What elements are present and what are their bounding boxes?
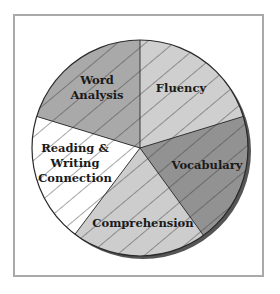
label-reading-line3: Connection (38, 171, 112, 185)
label-comprehension: Comprehension (92, 216, 194, 230)
pie-chart: Fluency Vocabulary Comprehension Reading… (0, 0, 280, 294)
label-fluency: Fluency (156, 81, 207, 95)
label-reading-line1: Reading & (41, 141, 109, 155)
label-word-line2: Analysis (69, 88, 123, 102)
label-vocabulary: Vocabulary (171, 158, 243, 172)
label-reading-line2: Writing (50, 156, 100, 170)
label-word-line1: Word (79, 73, 114, 87)
